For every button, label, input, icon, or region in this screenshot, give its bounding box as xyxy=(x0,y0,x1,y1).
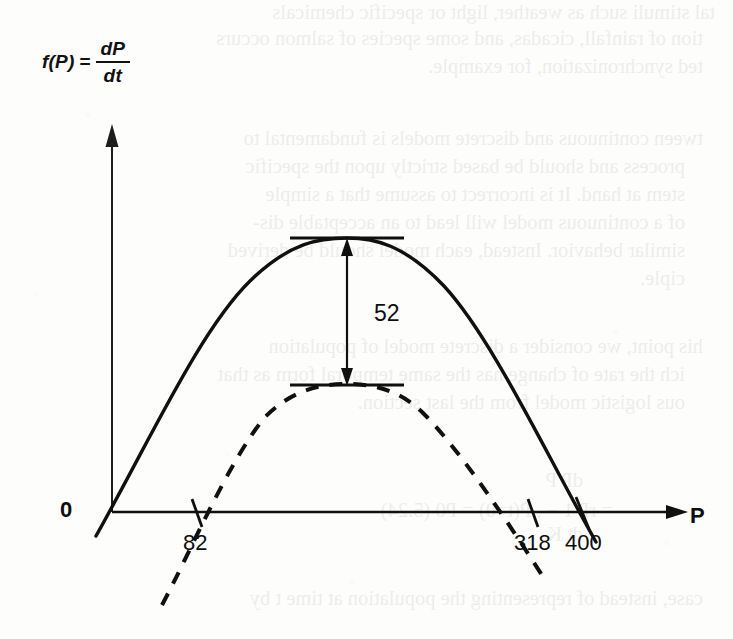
y-axis xyxy=(106,124,119,512)
dimension-arrowhead-down xyxy=(341,368,353,386)
dimension-arrowhead-up xyxy=(341,238,353,256)
population-growth-rate-graph xyxy=(0,0,733,639)
dashed-curve xyxy=(162,384,547,605)
x-tick-label-82: 82 xyxy=(183,530,207,556)
y-axis-arrowhead xyxy=(106,124,119,147)
x-tick-label-318: 318 xyxy=(514,530,551,556)
origin-label: 0 xyxy=(60,497,72,523)
x-axis-label: P xyxy=(690,503,705,529)
dimension-arrow-52 xyxy=(341,238,353,386)
gap-value-label: 52 xyxy=(374,300,400,327)
x-axis-arrowhead xyxy=(666,505,688,519)
x-tick-label-400: 400 xyxy=(565,530,602,556)
